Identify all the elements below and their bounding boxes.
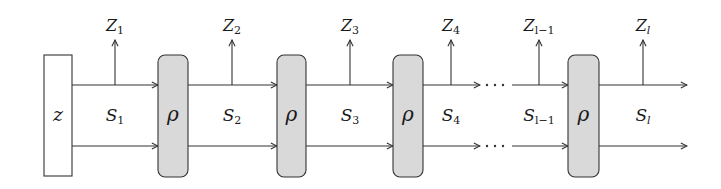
operator-rho-1: ρ	[158, 55, 188, 177]
ellipsis-upper	[486, 84, 504, 86]
state-label-s-l: Sl	[635, 105, 651, 127]
operator-label: ρ	[166, 102, 179, 126]
state-label-s3: S3	[341, 105, 360, 127]
segment-l-minus-1: Zl−1 Sl−1	[512, 16, 568, 146]
operator-label: ρ	[577, 102, 590, 126]
output-label-z2: Z2	[222, 16, 241, 37]
segment-l: Zl Sl	[599, 16, 687, 146]
segment-3: Z3 S3	[306, 16, 393, 146]
ellipsis-lower	[486, 145, 504, 147]
state-label-s4: S4	[442, 105, 461, 127]
state-label-s1: S1	[106, 105, 125, 127]
segment-2: Z2 S2	[188, 16, 277, 146]
source-label: z	[52, 103, 64, 125]
sequential-channel-diagram: z Z1 S1 ρ Z2 S2 ρ	[0, 0, 721, 189]
output-label-z4: Z4	[441, 16, 460, 37]
output-label-z-l: Zl	[635, 16, 651, 37]
operator-rho-last: ρ	[568, 55, 599, 177]
operator-rho-3: ρ	[393, 55, 423, 177]
operator-label: ρ	[285, 102, 298, 126]
output-label-z-l-minus-1: Zl−1	[523, 16, 555, 37]
segment-1: Z1 S1	[72, 16, 158, 146]
output-label-z3: Z3	[340, 16, 359, 37]
output-label-z1: Z1	[105, 16, 124, 37]
operator-rho-2: ρ	[277, 55, 306, 177]
segment-4: Z4 S4	[423, 16, 480, 146]
state-label-s2: S2	[223, 105, 242, 127]
source-node-z: z	[44, 55, 72, 176]
state-label-s-l-minus-1: Sl−1	[523, 105, 554, 127]
operator-label: ρ	[401, 102, 414, 126]
